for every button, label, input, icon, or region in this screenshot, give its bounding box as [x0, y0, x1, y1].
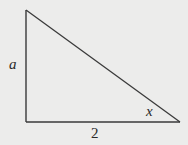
hypotenuse: [26, 10, 180, 122]
label-side-2: 2: [91, 126, 99, 141]
label-side-a: a: [9, 57, 17, 72]
right-triangle: [0, 0, 188, 145]
label-angle-x: x: [146, 104, 153, 119]
diagram-canvas: a x 2: [0, 0, 188, 145]
